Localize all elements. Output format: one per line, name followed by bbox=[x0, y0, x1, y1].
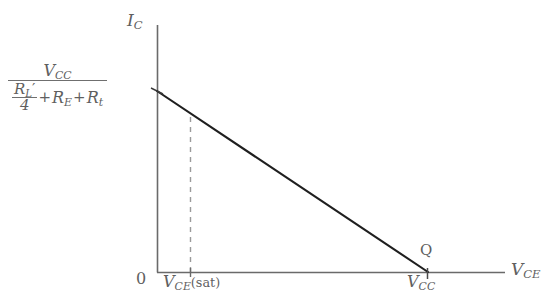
re-subscript: E bbox=[64, 96, 72, 109]
q-point-label: Q bbox=[420, 243, 432, 258]
rt-term: Rt bbox=[87, 90, 103, 106]
graph-canvas bbox=[0, 0, 558, 304]
rt-symbol: R bbox=[87, 88, 99, 107]
vce-sat-symbol: V bbox=[163, 272, 175, 291]
x-axis-label-symbol: V bbox=[511, 259, 523, 279]
plus-operator-1: + bbox=[37, 90, 52, 105]
re-symbol: R bbox=[52, 88, 64, 107]
vce-sat-label: VCE(sat) bbox=[163, 274, 220, 290]
load-line-figure: IC VCE 0 VCE(sat) VCC Q VCC RL′4+RE+Rt bbox=[0, 0, 558, 304]
inner-fraction-denominator: 4 bbox=[12, 98, 37, 113]
outer-fraction: VCC RL′4+RE+Rt bbox=[8, 63, 107, 113]
y-intercept-expression: VCC RL′4+RE+Rt bbox=[8, 63, 107, 113]
load-line bbox=[157, 91, 428, 272]
fraction-numerator: VCC bbox=[8, 63, 107, 80]
vcc-axis-symbol: V bbox=[407, 272, 419, 291]
y-axis-label-symbol: I bbox=[127, 10, 134, 30]
rl-prime: ′ bbox=[32, 80, 35, 98]
rl-subscript: L bbox=[25, 88, 32, 99]
y-axis-label-subscript: C bbox=[134, 18, 143, 32]
x-axis-label: VCE bbox=[511, 261, 541, 278]
fraction-denominator: RL′4+RE+Rt bbox=[8, 81, 107, 113]
y-axis-label: IC bbox=[127, 12, 143, 29]
re-term: RE bbox=[52, 90, 72, 106]
vce-sat-paren: (sat) bbox=[191, 275, 220, 290]
vcc-subscript: CC bbox=[55, 69, 72, 82]
plus-operator-2: + bbox=[72, 90, 87, 105]
origin-label: 0 bbox=[136, 271, 146, 287]
vcc-symbol: V bbox=[43, 61, 55, 80]
vce-sat-subscript: CE bbox=[175, 280, 191, 293]
vcc-axis-label: VCC bbox=[407, 274, 435, 290]
inner-fraction-numerator: RL′ bbox=[12, 82, 37, 97]
inner-fraction: RL′4 bbox=[12, 82, 37, 113]
rt-subscript: t bbox=[99, 96, 103, 109]
x-axis-label-subscript: CE bbox=[523, 267, 540, 281]
vcc-axis-subscript: CC bbox=[419, 280, 436, 293]
